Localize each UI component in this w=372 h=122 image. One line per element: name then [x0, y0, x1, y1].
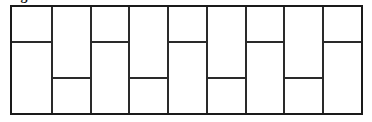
divider-line-top: [12, 41, 51, 43]
column-1: [12, 7, 51, 113]
column-5: [167, 7, 206, 113]
column-7: [245, 7, 284, 113]
figure-caption: Figure: [8, 0, 47, 4]
divider-line-top: [324, 41, 361, 43]
divider-line-top: [92, 41, 129, 43]
column-9: [322, 7, 361, 113]
tiled-rectangle-figure: [10, 5, 363, 115]
divider-line-bottom: [130, 77, 167, 79]
column-6: [206, 7, 245, 113]
column-3: [90, 7, 129, 113]
column-2: [51, 7, 90, 113]
divider-line-bottom: [208, 77, 245, 79]
divider-line-bottom: [285, 77, 322, 79]
column-4: [128, 7, 167, 113]
divider-line-top: [247, 41, 284, 43]
divider-line-top: [169, 41, 206, 43]
column-8: [283, 7, 322, 113]
divider-line-bottom: [53, 77, 90, 79]
